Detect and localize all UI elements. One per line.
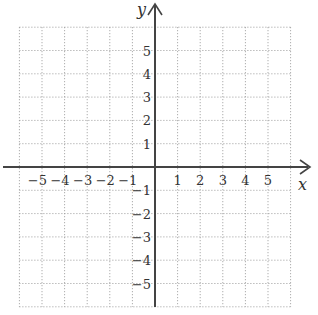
y-tick-label: −5 (132, 277, 151, 292)
x-tick-label: 4 (241, 173, 249, 188)
y-tick-label: 2 (143, 113, 151, 128)
axes (3, 4, 310, 307)
x-axis-label: x (298, 175, 307, 194)
y-tick-label: −2 (132, 207, 151, 222)
y-tick-label: −4 (132, 253, 151, 268)
x-tick-label: 1 (173, 173, 181, 188)
x-tick-label: 3 (219, 173, 227, 188)
y-tick-label: −3 (132, 230, 151, 245)
y-tick-label: 1 (143, 137, 151, 152)
y-tick-label: 5 (143, 44, 151, 59)
x-tick-label: 2 (196, 173, 204, 188)
y-tick-label: 3 (143, 90, 151, 105)
x-tick-label: −4 (50, 173, 69, 188)
y-tick-label: 4 (143, 67, 151, 82)
x-tick-label: −5 (28, 173, 47, 188)
x-tick-label: −3 (73, 173, 92, 188)
y-axis-label: y (136, 0, 147, 19)
x-tick-label: −2 (96, 173, 115, 188)
y-tick-label: −1 (132, 183, 151, 198)
coordinate-plane: x y −5−4−3−2−112345 54321−1−2−3−4−5 (0, 0, 318, 315)
x-tick-label: 5 (264, 173, 272, 188)
